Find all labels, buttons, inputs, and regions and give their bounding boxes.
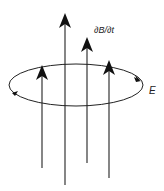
field-arrowheads xyxy=(36,13,115,80)
E-label: E xyxy=(149,85,156,96)
electric-field-loop-front xyxy=(9,85,143,106)
magnetic-field-lines xyxy=(42,22,109,185)
dB-dt-label: ∂B/∂t xyxy=(94,25,114,35)
faraday-diagram: ∂B/∂t E xyxy=(0,0,164,191)
electric-field-loop-back xyxy=(9,64,143,85)
